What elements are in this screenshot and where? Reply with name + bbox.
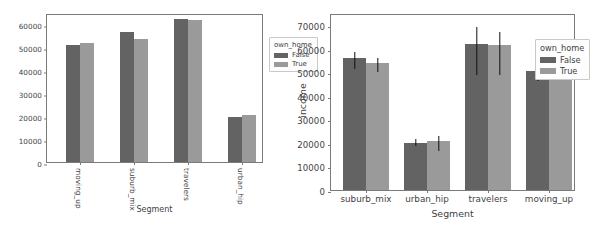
y-tick-left-2: 20000 [19,114,47,123]
x-label-left-urban_hip: urban_hip [236,168,245,205]
legend-swatch-true-icon [540,68,556,74]
bar-left-suburb_mix-false [120,32,134,162]
y-tick-left-1: 10000 [19,137,47,146]
legend-item-false-right[interactable]: False [540,55,584,65]
errorbar-right-urban_hip-true [438,136,439,151]
errorbar-right-suburb_mix-false [354,52,355,69]
x-tick-right-1 [427,190,428,193]
y-tick-right-6: 60000 [297,46,331,56]
y-tick-right-2: 20000 [297,140,331,150]
plot-area-left: 0 10000 20000 30000 40000 50000 60000 mo… [46,14,263,163]
y-axis-title-right: income [297,71,308,131]
y-tick-right-0: 0 [319,187,331,197]
figure-container: 0 10000 20000 30000 40000 50000 60000 mo… [0,0,595,230]
bar-left-urban_hip-false [228,117,242,162]
bar-right-urban_hip-false [404,143,427,190]
bar-left-travelers-false [174,19,188,162]
y-tick-left-5: 50000 [19,45,47,54]
errorbar-right-urban_hip-false [415,139,416,146]
errorbar-right-suburb_mix-true [377,58,378,72]
x-tick-left-3 [242,162,243,165]
x-tick-right-3 [549,190,550,193]
legend-swatch-false-icon [540,57,556,63]
errorbar-right-travelers-true [499,32,500,75]
y-tick-right-1: 10000 [297,163,331,173]
bar-left-travelers-true [188,20,202,162]
x-axis-title-right: Segment [330,208,575,219]
bar-left-urban_hip-true [242,115,256,162]
legend-item-true-right[interactable]: True [540,66,584,76]
x-tick-left-1 [134,162,135,165]
bar-right-suburb_mix-true [366,63,389,190]
bar-left-suburb_mix-true [134,39,148,162]
x-tick-left-2 [188,162,189,165]
bar-right-moving_up-false [526,71,549,190]
bar-left-moving_up-true [80,43,94,162]
y-tick-left-4: 40000 [19,68,47,77]
x-tick-right-0 [366,190,367,193]
x-tick-right-2 [488,190,489,193]
x-label-right-moving_up: moving_up [525,194,573,204]
legend-title-right: own_home [540,43,584,53]
bar-right-suburb_mix-false [343,58,366,190]
bar-chart-left: 0 10000 20000 30000 40000 50000 60000 mo… [0,0,290,230]
y-tick-left-0: 0 [37,160,47,169]
y-tick-left-3: 30000 [19,91,47,100]
bar-chart-right: 0 10000 20000 30000 40000 50000 60000 70… [290,0,595,230]
x-tick-left-0 [80,162,81,165]
x-label-right-urban_hip: urban_hip [405,194,449,204]
bar-right-moving_up-true [549,69,572,190]
legend-label-true-right: True [560,66,577,76]
y-tick-left-6: 60000 [19,22,47,31]
plot-area-right: 0 10000 20000 30000 40000 50000 60000 70… [330,14,575,191]
legend-swatch-false-icon [274,53,288,58]
legend-label-false-right: False [560,55,581,65]
legend-swatch-true-icon [274,62,288,67]
errorbar-right-travelers-false [476,27,477,75]
bar-left-moving_up-false [66,45,80,162]
x-axis-title-left: Segment [46,205,263,214]
x-label-right-travelers: travelers [468,194,507,204]
legend-right[interactable]: own_home False True [535,39,590,80]
x-label-left-moving_up: moving_up [74,168,83,209]
x-label-right-suburb_mix: suburb_mix [340,194,391,204]
y-tick-right-7: 70000 [297,22,331,32]
x-label-left-travelers: travelers [182,168,191,201]
